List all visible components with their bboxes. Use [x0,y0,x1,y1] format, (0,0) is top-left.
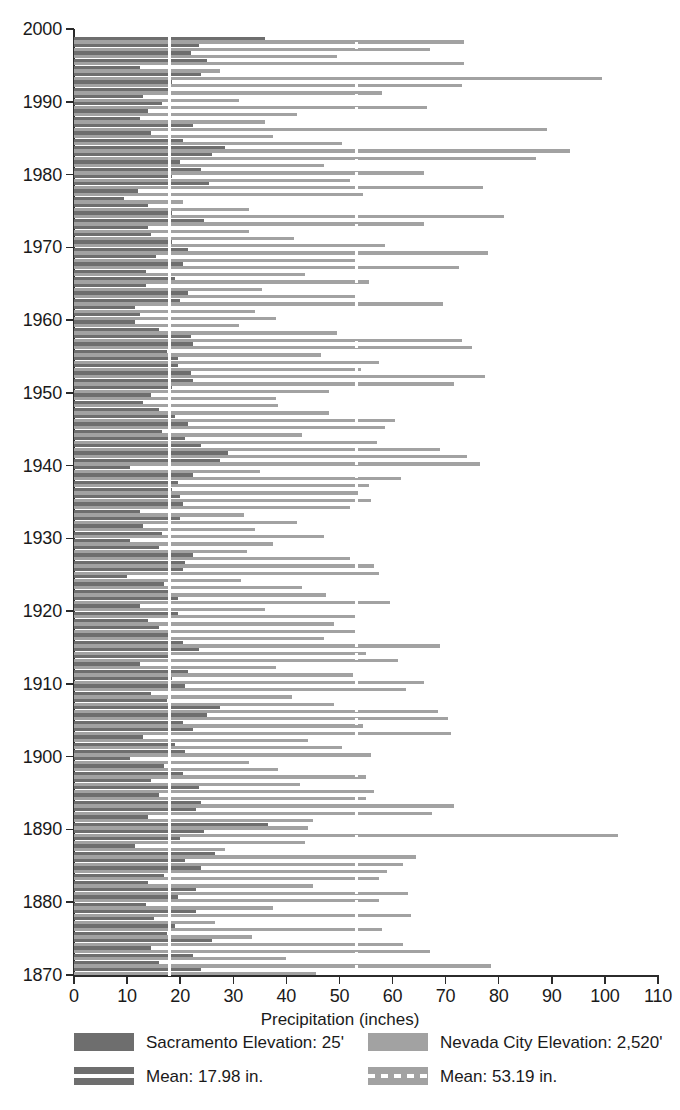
x-axis-tick [657,976,659,984]
bar-nevada-city [74,368,361,371]
bar-nevada-city [74,659,398,662]
x-axis-title: Precipitation (inches) [0,1010,680,1030]
bar-nevada-city [74,462,480,465]
bar-nevada-city [74,819,313,822]
bar-nevada-city [74,834,618,837]
bar-nevada-city [74,695,292,698]
bar-nevada-city [74,55,337,58]
x-axis-tick [73,976,75,984]
bar-nevada-city [74,855,416,858]
bar-nevada-city [74,390,329,393]
bar-nevada-city [74,746,342,749]
legend-label-nevada-city-mean: Mean: 53.19 in. [440,1065,557,1089]
bar-nevada-city [74,295,355,298]
y-axis-tick [66,392,74,394]
x-axis-tick-label: 70 [426,986,466,1006]
y-axis-tick [66,756,74,758]
legend-swatch-nevada-city-mean [368,1067,428,1085]
y-axis-tick-label: 1890 [0,820,62,838]
bar-nevada-city [74,62,464,65]
y-axis-tick [66,683,74,685]
bar-nevada-city [74,84,462,87]
x-axis-tick [126,976,128,984]
x-axis-tick-label: 50 [319,986,359,1006]
bar-nevada-city [74,91,382,94]
bar-nevada-city [74,652,366,655]
y-axis-tick-label: 1870 [0,966,62,984]
x-axis-tick-label: 80 [479,986,519,1006]
bar-nevada-city [74,259,355,262]
y-axis-tick [66,610,74,612]
bar-nevada-city [74,644,440,647]
y-axis-tick-label: 1990 [0,93,62,111]
bar-nevada-city [74,637,324,640]
bar-nevada-city [74,943,403,946]
nevada-city-mean-line [355,29,357,976]
bar-nevada-city [74,884,313,887]
bar-nevada-city [74,615,355,618]
bar-nevada-city [74,892,408,895]
bar-nevada-city [74,484,369,487]
x-axis-tick [286,976,288,984]
bar-nevada-city [74,419,395,422]
x-axis-tick [498,976,500,984]
bar-nevada-city [74,186,483,189]
bar-nevada-city [74,950,430,953]
bar-nevada-city [74,230,249,233]
legend-label-sacramento-mean: Mean: 17.98 in. [146,1065,263,1089]
bar-nevada-city [74,382,454,385]
y-axis-tick-label: 2000 [0,20,62,38]
sacramento-mean-line [168,29,170,976]
bar-nevada-city [74,237,294,240]
y-axis-tick-label: 1900 [0,748,62,766]
bar-nevada-city [74,914,411,917]
bar-nevada-city [74,790,374,793]
bar-nevada-city [74,426,385,429]
x-axis-tick-label: 10 [107,986,147,1006]
bar-nevada-city [74,666,276,669]
x-axis-tick-label: 60 [373,986,413,1006]
x-axis-tick [179,976,181,984]
bar-nevada-city [74,921,215,924]
bar-nevada-city [74,40,464,43]
bar-nevada-city [74,557,350,560]
bar-nevada-city [74,673,353,676]
bar-nevada-city [74,215,504,218]
y-axis-tick [66,538,74,540]
precipitation-chart: 1870188018901900191019201930194019501960… [0,0,680,1110]
y-axis-tick-label: 1920 [0,602,62,620]
bar-nevada-city [74,768,278,771]
y-axis-tick-label: 1980 [0,166,62,184]
bar-nevada-city [74,179,350,182]
x-axis-tick-label: 110 [638,986,678,1006]
bar-nevada-city [74,513,244,516]
bar-nevada-city [74,586,302,589]
bar-nevada-city [74,331,337,334]
y-axis-tick [66,101,74,103]
bar-nevada-city [74,681,424,684]
x-axis-tick [233,976,235,984]
x-axis-tick-label: 0 [54,986,94,1006]
bar-nevada-city [74,149,570,152]
bar-nevada-city [74,732,451,735]
bar-nevada-city [74,804,454,807]
legend-swatch-sacramento-mean [74,1067,134,1085]
bar-nevada-city [74,848,225,851]
bar-nevada-city [74,324,239,327]
bar-nevada-city [74,448,440,451]
bar-nevada-city [74,812,432,815]
x-axis-tick-label: 90 [532,986,572,1006]
bar-nevada-city [74,441,377,444]
bar-nevada-city [74,601,390,604]
y-axis-tick [66,901,74,903]
bar-nevada-city [74,310,255,313]
bar-nevada-city [74,964,491,967]
bar-nevada-city [74,899,379,902]
x-axis-tick [392,976,394,984]
bar-nevada-city [74,491,358,494]
legend-swatch-sacramento [74,1033,134,1051]
bar-nevada-city [74,703,334,706]
x-axis-tick [445,976,447,984]
y-axis-tick-label: 1930 [0,529,62,547]
bar-nevada-city [74,593,326,596]
